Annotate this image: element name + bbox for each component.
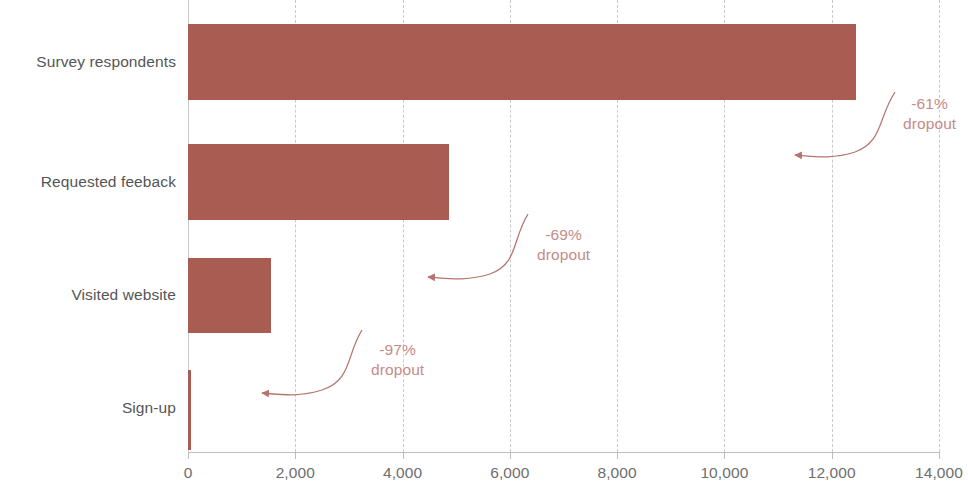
bar-survey-respondents[interactable]: [188, 24, 856, 100]
category-label-sign-up: Sign-up: [0, 399, 176, 417]
x-tick-14000: [939, 452, 940, 459]
annotation-dropout-97: -97% dropout: [371, 340, 424, 381]
category-label-visited-website: Visited website: [0, 286, 176, 304]
annotation-69-word: dropout: [537, 245, 590, 265]
bar-sign-up[interactable]: [188, 370, 191, 450]
annotation-dropout-69: -69% dropout: [537, 225, 590, 266]
x-tick-6000: [510, 452, 511, 459]
annotation-69-pct: -69%: [537, 225, 590, 245]
annotation-dropout-61: -61% dropout: [903, 94, 956, 135]
annotation-97-word: dropout: [371, 360, 424, 380]
bar-requested-feeback[interactable]: [188, 144, 449, 220]
x-tick-10000: [724, 452, 725, 459]
x-tick-label-8000: 8,000: [597, 464, 636, 482]
x-tick-2000: [295, 452, 296, 459]
gridline-14000: [939, 0, 940, 452]
category-label-survey-respondents: Survey respondents: [0, 53, 176, 71]
annotation-61-pct: -61%: [903, 94, 956, 114]
x-tick-label-6000: 6,000: [490, 464, 529, 482]
x-tick-label-4000: 4,000: [383, 464, 422, 482]
x-tick-0: [188, 452, 189, 459]
x-tick-label-0: 0: [184, 464, 193, 482]
x-tick-8000: [617, 452, 618, 459]
category-label-requested-feeback: Requested feeback: [0, 173, 176, 191]
x-tick-label-12000: 12,000: [808, 464, 856, 482]
x-tick-label-2000: 2,000: [276, 464, 315, 482]
x-tick-label-14000: 14,000: [915, 464, 963, 482]
x-tick-label-10000: 10,000: [700, 464, 748, 482]
annotation-61-word: dropout: [903, 114, 956, 134]
x-axis-line: [188, 452, 939, 453]
funnel-bar-chart: 0 2,000 4,000 6,000 8,000 10,000 12,000 …: [0, 0, 968, 499]
x-tick-12000: [832, 452, 833, 459]
bar-visited-website[interactable]: [188, 258, 271, 333]
x-tick-4000: [403, 452, 404, 459]
annotation-97-pct: -97%: [371, 340, 424, 360]
